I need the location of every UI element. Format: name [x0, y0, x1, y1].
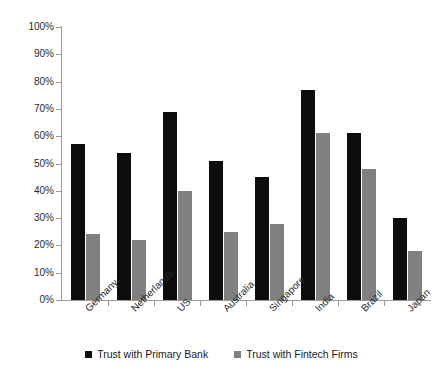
y-axis-tick: [56, 54, 61, 55]
bar-primary-australia: [209, 161, 223, 300]
y-axis-tick-label: 80%: [34, 77, 54, 87]
bar-chart: 100%90%80%70%60%50%40%30%20%10%0% German…: [0, 0, 443, 376]
legend-label: Trust with Primary Bank: [97, 349, 208, 360]
bar-primary-india: [301, 90, 315, 300]
bar-primary-netherlands: [117, 153, 131, 300]
x-axis-tick: [200, 301, 201, 306]
bar-primary-brazil: [347, 133, 361, 300]
y-axis-tick-label: 10%: [34, 268, 54, 278]
y-axis-tick: [56, 300, 61, 301]
legend-label: Trust with Fintech Firms: [246, 349, 358, 360]
y-axis-tick: [56, 191, 61, 192]
legend-swatch-icon-primary: [85, 351, 92, 358]
bar-fintech-us: [178, 191, 192, 300]
y-axis-tick-label: 0%: [40, 295, 54, 305]
y-axis-tick-label: 30%: [34, 213, 54, 223]
y-axis-tick-label: 50%: [34, 159, 54, 169]
x-axis-tick: [292, 301, 293, 306]
legend-item-primary[interactable]: Trust with Primary Bank: [85, 349, 208, 360]
y-axis-tick: [56, 109, 61, 110]
y-axis-tick-label: 60%: [34, 131, 54, 141]
plot-area: [62, 27, 430, 300]
bar-fintech-singapore: [270, 224, 284, 300]
y-axis-tick: [56, 136, 61, 137]
y-axis-tick-label: 70%: [34, 104, 54, 114]
y-axis-tick: [56, 27, 61, 28]
y-axis-tick-label: 100%: [28, 22, 54, 32]
y-axis-tick: [56, 164, 61, 165]
x-axis-tick: [384, 301, 385, 306]
bar-fintech-india: [316, 133, 330, 300]
y-axis-tick: [56, 82, 61, 83]
chart-legend: Trust with Primary BankTrust with Fintec…: [0, 349, 443, 360]
legend-item-fintech[interactable]: Trust with Fintech Firms: [234, 349, 358, 360]
x-axis-tick: [246, 301, 247, 306]
x-axis-tick: [108, 301, 109, 306]
bar-fintech-brazil: [362, 169, 376, 300]
y-axis-tick-label: 40%: [34, 186, 54, 196]
bar-primary-singapore: [255, 177, 269, 300]
legend-swatch-icon-fintech: [234, 351, 241, 358]
x-axis-tick: [338, 301, 339, 306]
bar-primary-japan: [393, 218, 407, 300]
y-axis-tick-label: 20%: [34, 240, 54, 250]
y-axis-tick: [56, 218, 61, 219]
x-axis-tick: [154, 301, 155, 306]
y-axis-tick: [56, 273, 61, 274]
y-axis-tick: [56, 245, 61, 246]
y-axis-tick-label: 90%: [34, 49, 54, 59]
bar-primary-germany: [71, 144, 85, 300]
